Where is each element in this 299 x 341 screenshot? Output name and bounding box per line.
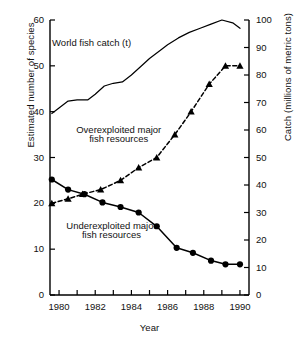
axis-frame (50, 20, 249, 295)
plot-area (0, 0, 299, 341)
data-point-marker (206, 81, 213, 87)
axis-ticks (50, 20, 249, 295)
data-point-marker (81, 191, 87, 197)
series-line-2 (52, 180, 240, 265)
series-line-0 (52, 20, 240, 114)
data-point-marker (136, 209, 142, 215)
data-point-marker (154, 223, 160, 229)
data-point-marker (208, 258, 214, 264)
data-point-marker (117, 204, 123, 210)
data-point-marker (188, 108, 195, 114)
data-point-marker (65, 186, 71, 192)
data-point-marker (99, 199, 105, 205)
data-point-marker (174, 245, 180, 251)
data-point-marker (190, 250, 196, 256)
fish-resources-chart: Estimated number of species Catch (milli… (0, 0, 299, 341)
data-series-layer (48, 20, 243, 267)
data-point-marker (135, 164, 142, 170)
data-point-marker (237, 261, 243, 267)
data-point-marker (222, 261, 228, 267)
data-point-marker (49, 176, 55, 182)
